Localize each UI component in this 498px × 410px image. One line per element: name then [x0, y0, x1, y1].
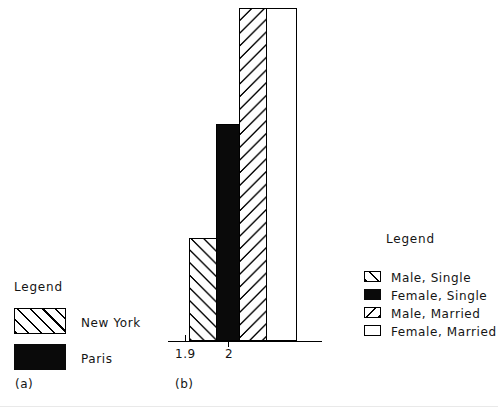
- panel-b-plot-area: [172, 0, 322, 342]
- bar-female-married: [266, 8, 297, 341]
- legend-label-female-married: Female, Married: [391, 326, 497, 338]
- legend-title-a: Legend: [14, 281, 63, 293]
- legend-entry-paris: Paris: [14, 344, 184, 372]
- x-tick-label-1: 1.9: [175, 348, 196, 360]
- page-bottom-rule: [0, 406, 498, 407]
- legend-swatch-female-single: [364, 289, 381, 300]
- figure-canvas: Legend New York Paris (a) 1.9 2 (: [0, 0, 498, 410]
- x-axis-tick-3: [296, 335, 297, 341]
- panel-a: Legend New York Paris: [14, 281, 184, 381]
- x-tick-label-2: 2: [225, 348, 233, 360]
- legend-swatch-male-married: [364, 307, 381, 318]
- legend-swatch-female-married: [364, 325, 381, 336]
- legend-label-female-single: Female, Single: [391, 290, 487, 302]
- legend-swatch-male-single: [364, 271, 381, 282]
- panel-b-caption: (b): [175, 378, 193, 390]
- legend-title-b: Legend: [386, 233, 435, 245]
- bar-male-married: [239, 8, 267, 341]
- x-axis-tick-1: [185, 335, 186, 341]
- legend-entry-female-single: Female, Single: [364, 287, 498, 303]
- bar-group: [172, 0, 322, 341]
- legend-swatch-paris: [14, 344, 66, 370]
- legend-label-new-york: New York: [81, 317, 141, 329]
- x-axis-line: [168, 341, 322, 342]
- legend-entry-male-married: Male, Married: [364, 305, 498, 321]
- legend-label-paris: Paris: [81, 353, 113, 365]
- legend-label-male-married: Male, Married: [391, 308, 481, 320]
- panel-a-caption: (a): [15, 378, 33, 390]
- legend-entry-male-single: Male, Single: [364, 269, 498, 285]
- legend-swatch-new-york: [14, 308, 66, 334]
- legend-label-male-single: Male, Single: [391, 272, 471, 284]
- bar-female-single: [216, 124, 240, 341]
- legend-entry-new-york: New York: [14, 308, 184, 336]
- panel-b-legend: Legend Male, Single Female, Single Male,…: [364, 233, 498, 343]
- legend-entry-female-married: Female, Married: [364, 323, 498, 339]
- bar-male-single: [189, 238, 217, 341]
